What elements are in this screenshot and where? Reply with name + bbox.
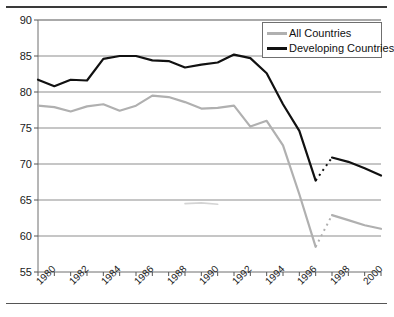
y-axis-tick-label: 70 (6, 159, 32, 169)
legend-item-all-countries: All Countries (267, 26, 377, 41)
y-axis-tick-label: 85 (6, 51, 32, 61)
legend-swatch-developing-countries (267, 47, 287, 50)
y-axis-tick-label: 80 (6, 87, 32, 97)
legend-label-all-countries: All Countries (289, 28, 351, 39)
chart-legend: All Countries Developing Countries (262, 22, 382, 58)
y-axis-tick-label: 65 (6, 195, 32, 205)
legend-label-developing-countries: Developing Countries (289, 43, 394, 54)
legend-swatch-all-countries (267, 32, 287, 35)
y-axis-tick-label: 55 (6, 267, 32, 277)
y-axis-tick-label: 60 (6, 231, 32, 241)
y-tick-marks-group (34, 20, 38, 272)
data-series-group (38, 55, 381, 247)
y-axis-tick-label: 75 (6, 123, 32, 133)
legend-item-developing-countries: Developing Countries (267, 41, 377, 56)
y-axis-tick-label: 90 (6, 15, 32, 25)
